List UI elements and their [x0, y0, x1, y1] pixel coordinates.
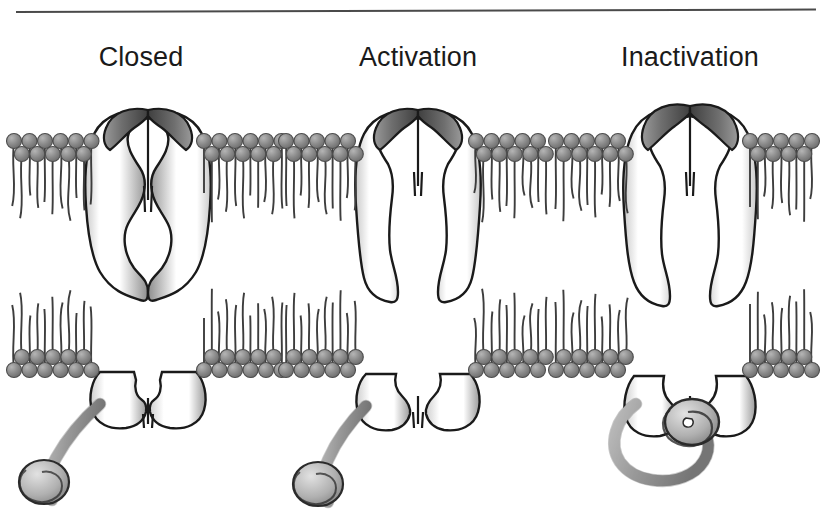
lipid-headgroup	[302, 147, 317, 162]
lipid-leaflet	[549, 290, 634, 378]
lipid-headgroup	[341, 363, 356, 378]
lipid-headgroup	[484, 363, 499, 378]
lipid-headgroup	[766, 147, 781, 162]
lipid-headgroup	[572, 147, 587, 162]
channel-cap-right	[418, 109, 462, 150]
lipid-headgroup	[781, 147, 796, 162]
lipid-headgroup	[492, 147, 507, 162]
lipid-headgroup	[774, 134, 789, 149]
lipid-headgroup	[69, 134, 84, 149]
lipid-headgroup	[476, 350, 491, 365]
lipid-headgroup	[294, 134, 309, 149]
lipid-tail	[281, 303, 282, 371]
lipid-headgroup	[595, 363, 610, 378]
lipid-headgroup	[341, 134, 356, 149]
lipid-headgroup	[197, 363, 212, 378]
lipid-headgroup	[469, 134, 484, 149]
lipid-headgroup	[523, 350, 538, 365]
lipid-headgroup	[781, 350, 796, 365]
lipid-headgroup	[259, 134, 274, 149]
lipid-headgroup	[235, 350, 250, 365]
lipid-headgroup	[325, 363, 340, 378]
lipid-headgroup	[22, 134, 37, 149]
lipid-headgroup	[789, 134, 804, 149]
channel-foot-right	[426, 374, 480, 430]
lipid-tail	[587, 306, 588, 370]
lipid-tail	[52, 297, 53, 357]
lipid-tail	[12, 141, 14, 206]
lipid-tail	[37, 303, 38, 357]
lipid-tail	[281, 141, 282, 209]
lipid-headgroup	[76, 350, 91, 365]
lipid-headgroup	[515, 363, 530, 378]
channel-foot-right	[150, 372, 206, 428]
lipid-headgroup	[204, 350, 219, 365]
lipid-tail	[309, 303, 310, 357]
lipid-headgroup	[243, 363, 258, 378]
lipid-headgroup	[750, 350, 765, 365]
lipid-tail	[20, 293, 22, 357]
lipid-headgroup	[531, 134, 546, 149]
lipid-headgroup	[333, 350, 348, 365]
lipid-headgroup	[595, 134, 610, 149]
lipid-headgroup	[228, 134, 243, 149]
lipid-tail	[68, 154, 70, 221]
lipid-headgroup	[7, 363, 22, 378]
lipid-tail	[29, 141, 30, 196]
lipid-tail	[772, 154, 773, 209]
inner-gate-slit	[413, 396, 423, 428]
lipid-tail	[626, 298, 628, 357]
lipid-headgroup	[212, 134, 227, 149]
lipid-headgroup	[294, 363, 309, 378]
channel-gating-figure: Closed Activation Inactivation	[0, 0, 821, 532]
lipid-headgroup	[220, 350, 235, 365]
lipid-headgroup	[484, 134, 499, 149]
lipid-headgroup	[564, 134, 579, 149]
lipid-tail	[555, 302, 556, 370]
lipid-headgroup	[531, 363, 546, 378]
lipid-headgroup	[580, 134, 595, 149]
lipid-headgroup	[348, 350, 363, 365]
lipid-tail	[44, 141, 45, 202]
lipid-headgroup	[76, 147, 91, 162]
lipid-headgroup	[587, 350, 602, 365]
lipid-tail	[29, 316, 30, 371]
lipid-headgroup	[45, 147, 60, 162]
lipid-leaflet	[7, 290, 100, 377]
lipid-headgroup	[587, 147, 602, 162]
lipid-tail	[538, 309, 539, 370]
lipid-headgroup	[7, 134, 22, 149]
lipid-headgroup	[515, 134, 530, 149]
lipid-headgroup	[38, 363, 53, 378]
lipid-headgroup	[14, 350, 29, 365]
lipid-headgroup	[750, 147, 765, 162]
lipid-headgroup	[348, 147, 363, 162]
lipid-headgroup	[266, 147, 281, 162]
lipid-headgroup	[204, 147, 219, 162]
lipid-headgroup	[45, 350, 60, 365]
lipid-tail	[789, 296, 790, 357]
lipid-headgroup	[805, 363, 820, 378]
lipid-headgroup	[805, 134, 820, 149]
lipid-headgroup	[14, 147, 29, 162]
lipid-headgroup	[523, 147, 538, 162]
lipid-tail	[491, 312, 492, 371]
lipid-headgroup	[61, 147, 76, 162]
lipid-tail	[76, 313, 77, 370]
channel-cap-left	[642, 104, 690, 150]
lipid-tail	[243, 154, 244, 218]
lipid-tail	[595, 294, 596, 357]
lipid-tail	[546, 154, 547, 214]
lipid-headgroup	[564, 363, 579, 378]
lipid-tail	[52, 154, 53, 214]
lipid-headgroup	[61, 350, 76, 365]
lipid-headgroup	[317, 147, 332, 162]
lipid-tail	[499, 154, 500, 212]
lipid-tail	[514, 154, 515, 218]
lipid-headgroup	[507, 350, 522, 365]
lipid-tail	[587, 141, 588, 205]
lipid-headgroup	[797, 147, 812, 162]
lipid-headgroup	[251, 147, 266, 162]
lipid-leaflet	[549, 134, 634, 222]
panel-activation	[293, 109, 481, 506]
